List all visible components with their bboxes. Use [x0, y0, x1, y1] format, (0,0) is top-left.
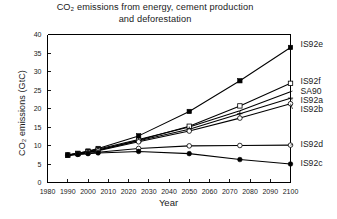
svg-text:2050: 2050 — [181, 188, 197, 195]
marker-is92b — [238, 116, 243, 121]
series-label-is92f: IS92f — [301, 76, 322, 86]
series-line-is92e — [68, 47, 291, 155]
svg-text:40: 40 — [34, 31, 42, 38]
marker-is92e — [136, 134, 140, 138]
svg-text:10: 10 — [34, 142, 42, 149]
marker-is92f — [238, 104, 242, 108]
marker-is92b — [187, 129, 192, 134]
series-label-is92c: IS92c — [301, 158, 324, 168]
marker-is92c — [96, 151, 101, 156]
marker-is92e — [187, 109, 191, 113]
marker-is92b — [136, 140, 141, 145]
marker-is92e — [238, 79, 242, 83]
series-line-is92c — [68, 151, 291, 164]
svg-text:2030: 2030 — [141, 188, 157, 195]
svg-text:2070: 2070 — [222, 188, 238, 195]
svg-text:30: 30 — [34, 68, 42, 75]
marker-is92d — [187, 144, 192, 149]
svg-text:5: 5 — [38, 161, 42, 168]
svg-text:20: 20 — [34, 105, 42, 112]
svg-text:2020: 2020 — [121, 188, 137, 195]
svg-text:2040: 2040 — [161, 188, 177, 195]
svg-text:2100: 2100 — [283, 188, 299, 195]
marker-is92d — [238, 143, 243, 148]
series-label-is92d: IS92d — [301, 139, 324, 149]
svg-text:25: 25 — [34, 87, 42, 94]
marker-is92c — [238, 157, 243, 162]
marker-is92e — [288, 45, 292, 49]
series-label-is92b: IS92b — [301, 104, 324, 114]
series-line-is92f — [68, 83, 291, 155]
data-series-markers — [65, 45, 293, 166]
svg-text:1980: 1980 — [40, 188, 56, 195]
series-label-is92e: IS92e — [301, 39, 324, 49]
marker-is92c — [136, 149, 141, 154]
y-tick-labels: 0510152025303540 — [34, 31, 42, 186]
series-end-labels: IS92eIS92fSA90IS92aIS92bIS92dIS92c — [291, 39, 324, 168]
x-tick-labels: 1980199020002010202020302040205020602070… — [40, 188, 299, 195]
marker-is92c — [65, 153, 70, 158]
marker-is92c — [187, 151, 192, 156]
svg-text:15: 15 — [34, 124, 42, 131]
svg-text:1990: 1990 — [60, 188, 76, 195]
svg-text:35: 35 — [34, 50, 42, 57]
svg-text:2080: 2080 — [242, 188, 258, 195]
plot-area: 0510152025303540 19801990200020102020203… — [0, 0, 337, 219]
marker-is92f — [288, 81, 292, 85]
marker-is92c — [76, 152, 81, 157]
chart-figure: CO₂ emissions from energy, cement produc… — [0, 0, 337, 219]
svg-text:2000: 2000 — [80, 188, 96, 195]
marker-is92c — [86, 151, 91, 156]
svg-text:0: 0 — [38, 179, 42, 186]
svg-text:2010: 2010 — [100, 188, 116, 195]
svg-text:2060: 2060 — [202, 188, 218, 195]
svg-text:2090: 2090 — [262, 188, 278, 195]
data-series-lines — [68, 47, 291, 164]
